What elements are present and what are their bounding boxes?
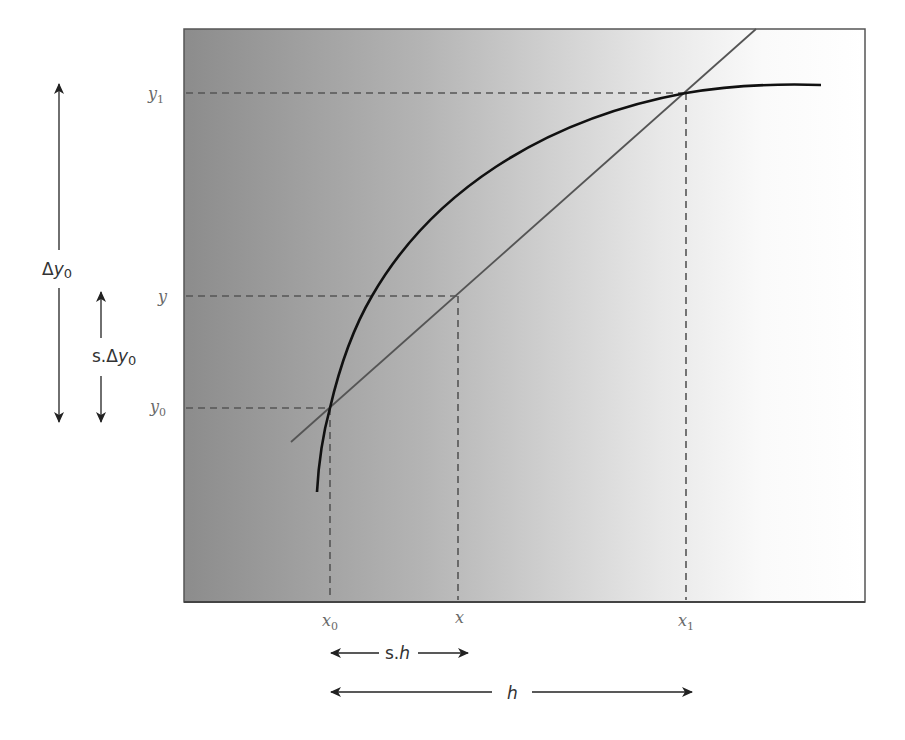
label-x1: x1 xyxy=(678,611,694,633)
label-y: y xyxy=(157,287,168,306)
s-delta-y0-label: s.Δy0 xyxy=(92,346,136,368)
label-y1: y1 xyxy=(147,84,164,106)
label-y0: y0 xyxy=(149,397,166,419)
delta-y0-label: Δy0 xyxy=(42,259,72,281)
h-label: h xyxy=(507,683,518,703)
label-x0: x0 xyxy=(322,611,338,633)
label-x: x xyxy=(455,608,464,627)
secant-diagram: y1 y y0 x0 x x1 Δy0 s.Δy0 s.h h xyxy=(0,0,905,740)
plot-area xyxy=(184,29,865,602)
s-h-label: s.h xyxy=(385,643,410,663)
